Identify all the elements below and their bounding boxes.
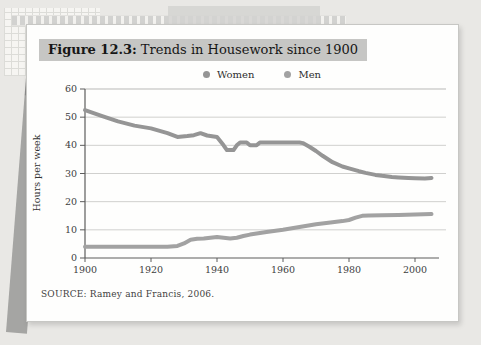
y-axis-title: Hours per week	[31, 135, 42, 212]
y-tick-label-50: 50	[65, 111, 77, 122]
y-tick-label-60: 60	[65, 83, 77, 94]
figure-card: Figure 12.3:Trends in Housework since 19…	[26, 24, 459, 322]
women-line	[85, 110, 432, 179]
source-note: SOURCE: Ramey and Francis, 2006.	[41, 289, 214, 299]
x-tick-label-1960: 1960	[271, 264, 295, 275]
y-tick-label-40: 40	[65, 139, 77, 150]
y-tick-label-30: 30	[65, 168, 77, 179]
y-tick-label-10: 10	[65, 224, 77, 235]
x-tick-label-1900: 1900	[73, 264, 97, 275]
x-tick-label-1920: 1920	[139, 264, 163, 275]
chart-plot: 0102030405060190019201940196019802000	[27, 25, 458, 321]
men-line	[85, 214, 432, 247]
x-tick-label-1980: 1980	[337, 264, 361, 275]
y-tick-label-0: 0	[71, 252, 77, 263]
y-tick-label-20: 20	[65, 196, 77, 207]
x-tick-label-1940: 1940	[205, 264, 229, 275]
x-tick-label-2000: 2000	[403, 264, 427, 275]
